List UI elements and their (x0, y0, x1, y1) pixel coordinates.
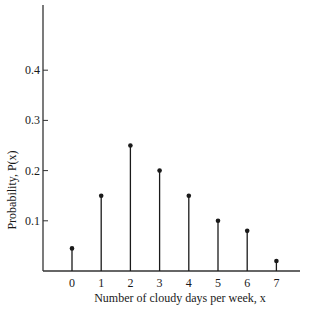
y-tick-label: 0.1 (25, 214, 40, 228)
x-tick-label: 0 (69, 276, 75, 290)
stem-6 (245, 229, 250, 271)
stem-3 (157, 168, 162, 271)
data-point (157, 168, 162, 173)
data-point (216, 219, 221, 224)
data-point (245, 229, 250, 234)
y-tick-label: 0.2 (25, 164, 40, 178)
x-tick-label: 2 (127, 276, 133, 290)
x-axis-ticks: 01234567 (69, 276, 279, 290)
axes (43, 5, 300, 271)
probability-stem-chart: 0.10.20.30.4 01234567 Number of cloudy d… (0, 0, 319, 310)
stem-0 (70, 246, 75, 271)
stem-4 (187, 193, 192, 271)
stem-1 (99, 193, 104, 271)
x-tick-label: 4 (186, 276, 192, 290)
y-tick-label: 0.4 (25, 63, 40, 77)
x-tick-label: 6 (244, 276, 250, 290)
data-point (274, 259, 279, 264)
x-tick-label: 3 (157, 276, 163, 290)
y-axis-ticks: 0.10.20.30.4 (25, 63, 48, 228)
stem-7 (274, 259, 279, 271)
stem-5 (216, 219, 221, 272)
x-tick-label: 7 (273, 276, 279, 290)
stem-2 (128, 143, 133, 271)
data-point (187, 193, 192, 198)
y-tick-label: 0.3 (25, 113, 40, 127)
data-stems (70, 143, 279, 271)
x-tick-label: 5 (215, 276, 221, 290)
x-tick-label: 1 (98, 276, 104, 290)
data-point (128, 143, 133, 148)
y-axis-label: Probability, P(x) (5, 150, 19, 229)
data-point (99, 193, 104, 198)
x-axis-label: Number of cloudy days per week, x (94, 291, 266, 305)
data-point (70, 246, 75, 251)
